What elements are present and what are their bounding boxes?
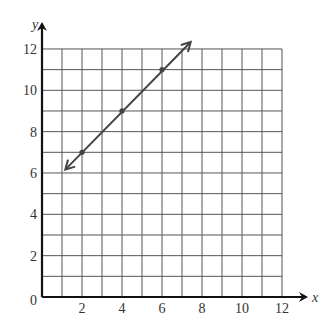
y-tick-label: 6 [30, 166, 37, 181]
y-tick-label: 8 [30, 125, 37, 140]
y-tick-label: 12 [23, 42, 37, 57]
y-tick-label: 10 [23, 83, 37, 98]
origin-label: 0 [30, 293, 37, 308]
x-tick-label: 2 [79, 301, 86, 316]
y-axis-label: y [30, 17, 39, 32]
data-series [66, 43, 190, 169]
x-axis-label: x [311, 290, 319, 305]
data-point [119, 108, 124, 113]
plotted-line [66, 43, 190, 169]
y-tick-label: 4 [30, 207, 37, 222]
x-tick-label: 10 [235, 301, 249, 316]
tick-labels: 24681012246810120 [23, 42, 289, 316]
grid-lines [42, 49, 282, 297]
x-tick-label: 6 [159, 301, 166, 316]
x-tick-label: 4 [119, 301, 126, 316]
x-tick-label: 8 [199, 301, 206, 316]
coordinate-plane: xy 24681012246810120 [0, 0, 333, 323]
data-point [159, 67, 164, 72]
x-tick-label: 12 [275, 301, 289, 316]
y-tick-label: 2 [30, 249, 37, 264]
data-point [79, 150, 84, 155]
